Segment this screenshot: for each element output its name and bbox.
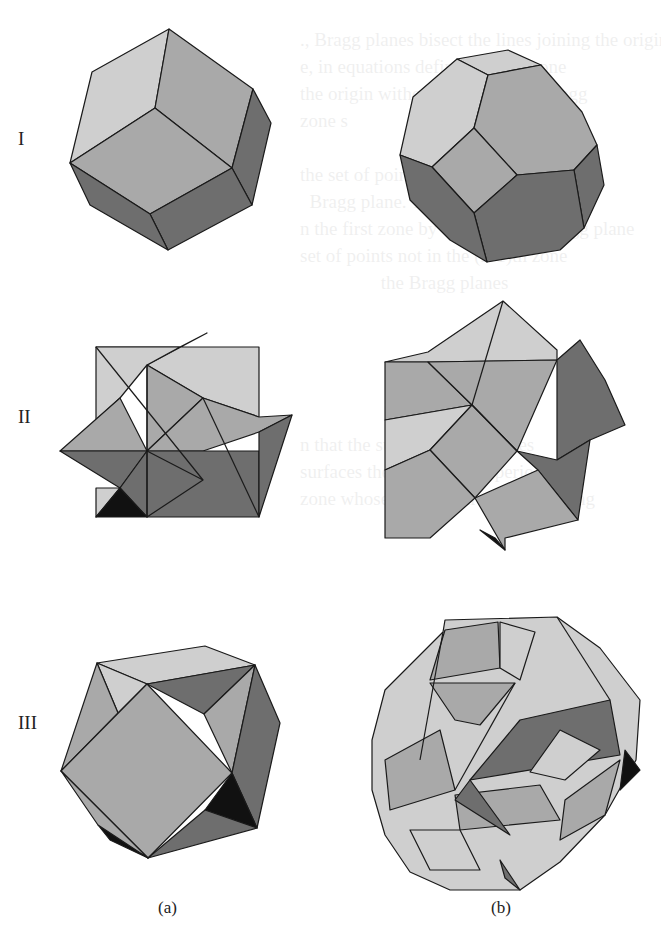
row-label-I: I	[18, 128, 24, 150]
polyhedron-Ib	[400, 50, 604, 262]
polyhedron-Ia	[70, 29, 271, 250]
polyhedron-IIb	[385, 301, 625, 550]
row-label-III: III	[18, 712, 37, 734]
polyhedron-IIIa	[61, 646, 280, 858]
caption-b: (b)	[491, 898, 511, 918]
caption-a: (a)	[158, 898, 177, 918]
polyhedron-IIa	[60, 333, 292, 517]
row-label-II: II	[18, 406, 31, 428]
polyhedron-IIIb	[372, 617, 640, 890]
polyhedra-figure	[0, 0, 661, 941]
